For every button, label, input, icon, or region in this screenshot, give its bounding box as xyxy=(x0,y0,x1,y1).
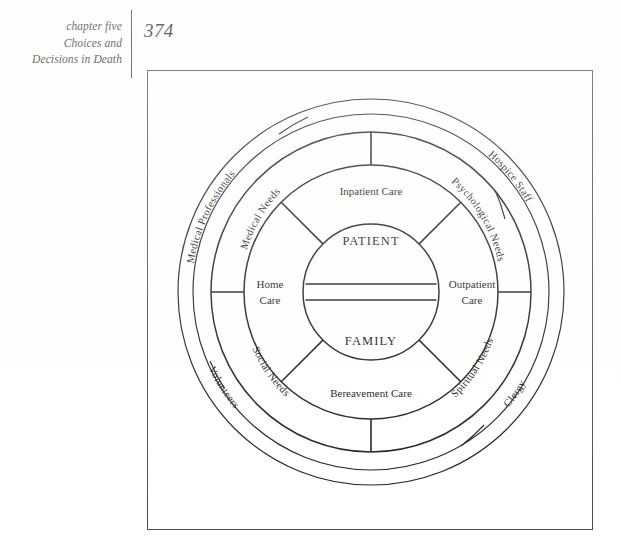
care-label-home-line2: Care xyxy=(260,294,281,306)
circle-providers-outer xyxy=(193,114,549,470)
figure-frame: PATIENT FAMILY Inpatient Care Outpatient… xyxy=(147,70,593,530)
care-label-inpatient: Inpatient Care xyxy=(340,185,403,197)
provider-label-hospice-staff-text: Hospice Staff xyxy=(486,149,534,204)
care-divider-nw xyxy=(281,202,323,244)
provider-label-hospice-staff: Hospice Staff xyxy=(486,149,534,204)
care-label-outpatient-line1: Outpatient xyxy=(449,278,495,290)
leader-tick-hospice-staff xyxy=(495,190,505,219)
running-head-line-3: Decisions in Death xyxy=(0,51,122,68)
hospice-care-wheel-diagram: PATIENT FAMILY Inpatient Care Outpatient… xyxy=(148,71,594,531)
needs-label-medical: Medical Needs xyxy=(238,186,282,251)
care-label-bereavement: Bereavement Care xyxy=(330,387,412,399)
circle-providers-inner xyxy=(211,132,531,452)
page-number: 374 xyxy=(144,20,174,42)
needs-label-social: Social Needs xyxy=(250,345,292,399)
needs-label-spiritual: Spiritual Needs xyxy=(449,336,495,399)
needs-label-psychological: Psychological Needs xyxy=(450,175,507,262)
provider-label-clergy-text: Clergy xyxy=(501,378,527,409)
needs-label-social-text: Social Needs xyxy=(250,345,292,399)
provider-label-medical-professionals: Medical Professionals xyxy=(185,168,237,264)
needs-label-psychological-text: Psychological Needs xyxy=(450,175,507,262)
core-label-family: FAMILY xyxy=(345,334,397,348)
core-label-patient: PATIENT xyxy=(342,234,399,248)
care-label-home-line1: Home xyxy=(257,278,284,290)
care-divider-sw xyxy=(281,340,323,382)
running-head-line-2: Choices and xyxy=(0,35,122,52)
leader-tick-clergy xyxy=(461,425,484,446)
provider-label-medical-professionals-text: Medical Professionals xyxy=(185,168,237,264)
needs-label-medical-text: Medical Needs xyxy=(238,186,282,251)
care-divider-ne xyxy=(419,202,461,244)
running-head-line-1: chapter five xyxy=(0,18,122,35)
needs-label-spiritual-text: Spiritual Needs xyxy=(449,336,495,399)
care-label-outpatient-line2: Care xyxy=(462,294,483,306)
care-divider-se xyxy=(419,340,461,382)
running-head: chapter five Choices and Decisions in De… xyxy=(0,18,122,68)
header-vertical-rule xyxy=(131,10,132,78)
provider-label-clergy: Clergy xyxy=(501,378,527,409)
